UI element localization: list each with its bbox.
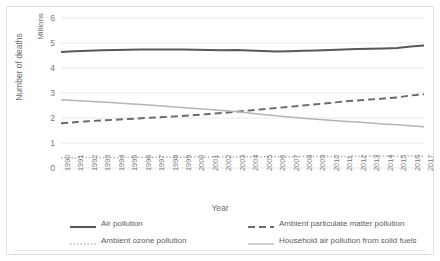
y-axis-title: Number of deaths [14,12,24,122]
x-tick-label: 2016 [414,155,421,171]
x-tick-label: 2013 [373,155,380,171]
legend-swatch-icon [70,235,96,245]
legend-label: Ambient ozone pollution [101,236,186,245]
x-tick-label: 2000 [198,155,205,171]
y-tick-label: 1 [39,139,55,148]
x-tick-label: 2007 [293,155,300,171]
x-tick-label: 2010 [333,155,340,171]
legend-swatch-icon [70,218,96,228]
y-axis-units-label: Millions [36,5,45,49]
legend-item[interactable]: Air pollution [70,218,143,228]
x-tick-label: 2004 [252,155,259,171]
x-tick-label: 2001 [212,155,219,171]
x-tick-label: 2015 [400,155,407,171]
legend-item[interactable]: Ambient ozone pollution [70,235,186,245]
chart-card: 0123456199019911992199319941995199619971… [0,0,440,261]
legend-label: Household air pollution from solid fuels [279,236,416,245]
x-tick-label: 1990 [64,155,71,171]
x-tick-label: 1993 [104,155,111,171]
x-tick-label: 2012 [360,155,367,171]
x-tick-label: 2011 [346,155,353,171]
chart-legend: Air pollutionAmbient particulate matter … [52,218,424,252]
x-tick-label: 1991 [77,155,84,171]
y-tick-label: 0 [39,164,55,173]
x-tick-label: 2006 [279,155,286,171]
legend-swatch-icon [248,218,274,228]
x-tick-label: 1994 [118,155,125,171]
x-tick-label: 2009 [319,155,326,171]
x-tick-label: 2008 [306,155,313,171]
x-axis-title: Year [0,203,440,213]
x-tick-label: 1999 [185,155,192,171]
x-tick-label: 2003 [239,155,246,171]
x-tick-label: 1996 [145,155,152,171]
series-line-3 [61,100,424,127]
legend-label: Air pollution [101,219,143,228]
x-tick-label: 1995 [131,155,138,171]
x-tick-label: 2002 [225,155,232,171]
legend-item[interactable]: Household air pollution from solid fuels [248,235,416,245]
series-line-0 [61,46,424,53]
legend-label: Ambient particulate matter pollution [279,219,404,228]
x-tick-label: 1998 [172,155,179,171]
x-tick-label: 2014 [387,155,394,171]
y-tick-label: 2 [39,114,55,123]
x-tick-label: 2005 [266,155,273,171]
legend-separator [14,250,426,251]
x-tick-label: 1992 [91,155,98,171]
y-tick-label: 3 [39,89,55,98]
x-tick-label: 2017 [427,155,434,171]
legend-swatch-icon [248,235,274,245]
legend-item[interactable]: Ambient particulate matter pollution [248,218,404,228]
series-line-1 [61,94,424,123]
y-tick-label: 4 [39,64,55,73]
x-tick-label: 1997 [158,155,165,171]
